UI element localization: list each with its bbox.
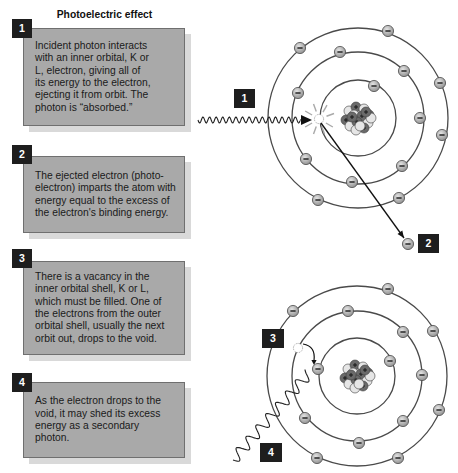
energy-burst	[326, 123, 333, 127]
electron-drop-arrow	[303, 344, 314, 361]
neutron	[355, 121, 365, 131]
ejection-path	[321, 123, 404, 238]
electron-vacancy	[314, 114, 323, 123]
energy-burst	[305, 111, 312, 115]
energy-burst	[314, 127, 317, 135]
energy-burst	[314, 104, 317, 112]
neutron	[354, 379, 364, 389]
diagram-label-1: 1	[234, 89, 255, 108]
electron-vacancy	[293, 343, 302, 352]
diagram-label-2: 2	[418, 234, 439, 253]
energy-burst	[323, 105, 327, 112]
diagram-label-4: 4	[260, 443, 282, 462]
diagram-label-3: 3	[262, 329, 284, 348]
ejection-arrowhead	[398, 231, 405, 238]
atom-diagram	[0, 0, 458, 473]
incident-photon-wave	[198, 117, 300, 123]
photoelectric-figure: Photoelectric effect Incident photon int…	[0, 0, 458, 473]
energy-burst	[327, 114, 335, 117]
energy-burst	[305, 123, 312, 127]
